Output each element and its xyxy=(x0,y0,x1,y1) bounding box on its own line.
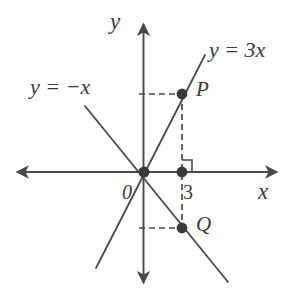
point-p-marker xyxy=(177,89,188,100)
point-q-marker xyxy=(177,223,188,234)
x-tick-label-3: 3 xyxy=(183,182,193,202)
origin-label: 0 xyxy=(122,182,132,202)
y-axis-label: y xyxy=(110,10,120,33)
point-p-label: P xyxy=(196,79,209,100)
x-axis-label: x xyxy=(258,180,268,203)
line-label-y-equals-3x: y = 3x xyxy=(209,39,265,61)
point-foot-marker xyxy=(177,167,188,178)
point-q-label: Q xyxy=(196,214,211,235)
line-y-equals-negative-x xyxy=(85,106,228,282)
coordinate-plane-figure: y x y = 3x y = −x P Q 0 3 xyxy=(0,0,299,301)
point-origin-marker xyxy=(138,166,149,177)
line-label-y-equals-negative-x: y = −x xyxy=(30,76,90,98)
line-y-equals-3x xyxy=(96,55,205,268)
